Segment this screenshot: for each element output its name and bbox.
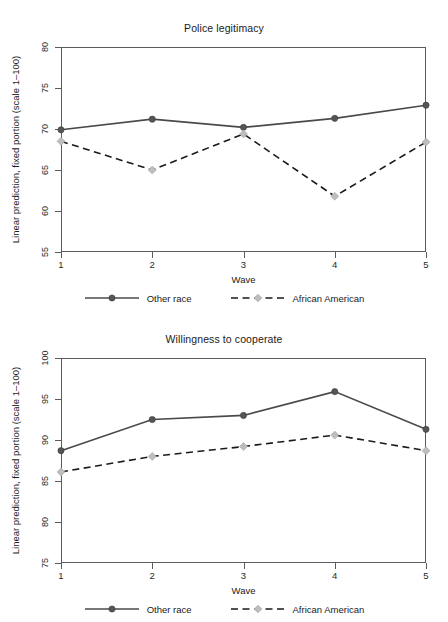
y-axis-label: Linear prediction, fixed portion (scale …	[10, 47, 26, 252]
x-tick-mark	[244, 563, 245, 569]
x-tick-label: 4	[325, 259, 345, 270]
x-tick-label: 4	[325, 570, 345, 581]
x-tick-mark	[426, 563, 427, 569]
legend-marker	[109, 606, 115, 612]
legend-item-other-race[interactable]: Other race	[84, 292, 192, 304]
data-point-marker	[423, 102, 429, 108]
data-point-marker	[58, 127, 64, 133]
data-point-marker	[332, 389, 338, 395]
data-point-marker	[423, 426, 429, 432]
chart-title: Willingness to cooperate	[0, 333, 448, 345]
y-tick-label: 70	[38, 118, 52, 140]
data-point-marker	[57, 137, 65, 145]
x-tick-label: 3	[234, 570, 254, 581]
x-tick-label: 3	[234, 259, 254, 270]
x-tick-mark	[335, 252, 336, 258]
x-tick-mark	[152, 252, 153, 258]
y-tick-label: 65	[38, 159, 52, 181]
x-axis-label: Wave	[61, 274, 426, 285]
y-axis-label: Linear prediction, fixed portion (scale …	[10, 358, 26, 563]
y-tick-label: 60	[38, 200, 52, 222]
legend-marker	[254, 294, 262, 302]
legend-key-icon	[84, 292, 140, 304]
x-tick-mark	[426, 252, 427, 258]
legend-label: African American	[293, 293, 365, 304]
data-point-marker	[240, 443, 248, 451]
figure-canvas: Police legitimacy Linear prediction, fix…	[0, 0, 448, 622]
x-tick-label: 5	[416, 570, 436, 581]
y-tick-label: 90	[38, 429, 52, 451]
data-point-marker	[422, 447, 430, 455]
x-axis-label: Wave	[61, 585, 426, 596]
y-tick-label: 95	[38, 388, 52, 410]
legend-label: Other race	[147, 293, 192, 304]
plot-lines	[61, 47, 426, 252]
x-tick-mark	[244, 252, 245, 258]
data-point-marker	[149, 116, 155, 122]
chart-title: Police legitimacy	[0, 22, 448, 34]
chart-panel-willingness-to-cooperate: Willingness to cooperate Linear predicti…	[0, 311, 448, 622]
legend-item-other-race[interactable]: Other race	[84, 603, 192, 615]
x-tick-label: 5	[416, 259, 436, 270]
data-point-marker	[148, 166, 156, 174]
x-tick-label: 2	[142, 259, 162, 270]
x-tick-mark	[335, 563, 336, 569]
chart-legend: Other raceAfrican American	[0, 292, 448, 304]
y-tick-label: 80	[38, 511, 52, 533]
data-point-marker	[148, 452, 156, 460]
plot-lines	[61, 358, 426, 563]
data-point-marker	[57, 468, 65, 476]
y-tick-label: 80	[38, 36, 52, 58]
x-tick-label: 2	[142, 570, 162, 581]
chart-legend: Other raceAfrican American	[0, 603, 448, 615]
x-tick-label: 1	[51, 570, 71, 581]
x-tick-label: 1	[51, 259, 71, 270]
data-point-marker	[149, 416, 155, 422]
legend-marker	[254, 605, 262, 613]
data-point-marker	[240, 412, 246, 418]
legend-label: African American	[293, 604, 365, 615]
y-tick-label: 55	[38, 241, 52, 263]
y-tick-label: 100	[38, 347, 52, 369]
legend-item-african-american[interactable]: African American	[230, 292, 365, 304]
y-tick-label: 75	[38, 77, 52, 99]
legend-marker	[109, 295, 115, 301]
legend-key-icon	[84, 603, 140, 615]
legend-label: Other race	[147, 604, 192, 615]
y-tick-label: 75	[38, 552, 52, 574]
data-point-marker	[58, 448, 64, 454]
data-point-marker	[422, 138, 430, 146]
legend-key-icon	[230, 603, 286, 615]
data-point-marker	[332, 115, 338, 121]
data-point-marker	[331, 431, 339, 439]
legend-key-icon	[230, 292, 286, 304]
chart-panel-police-legitimacy: Police legitimacy Linear prediction, fix…	[0, 0, 448, 311]
series-line-african-american	[61, 435, 426, 472]
y-tick-label: 85	[38, 470, 52, 492]
legend-item-african-american[interactable]: African American	[230, 603, 365, 615]
series-line-african-american	[61, 134, 426, 196]
x-tick-mark	[152, 563, 153, 569]
x-tick-mark	[61, 563, 62, 569]
x-tick-mark	[61, 252, 62, 258]
